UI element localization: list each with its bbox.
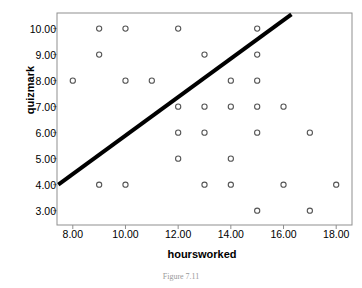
y-tick-label-text: 3.00 (14, 206, 56, 216)
data-point (255, 208, 260, 213)
data-point (202, 52, 207, 57)
y-tick-label-text: 7.00 (14, 102, 56, 112)
scatter-plot-figure: quizmark 3.004.005.006.007.008.009.0010.… (0, 0, 362, 288)
data-point (228, 104, 233, 109)
y-tick-label-text: 9.00 (14, 50, 56, 60)
data-point (255, 104, 260, 109)
data-point (149, 78, 154, 83)
data-point (202, 182, 207, 187)
data-point (176, 130, 181, 135)
data-point (97, 52, 102, 57)
figure-caption: Figure 7.11 (0, 272, 362, 281)
data-point (202, 104, 207, 109)
data-point (255, 52, 260, 57)
x-axis-title: hoursworked (60, 248, 344, 260)
x-tick-label-text: 18.00 (311, 228, 361, 240)
data-point (202, 130, 207, 135)
y-tick-label: 8.00 (6, 76, 56, 86)
data-point (255, 78, 260, 83)
data-point (176, 156, 181, 161)
data-point (70, 78, 75, 83)
y-tick-label-text: 10.00 (14, 24, 56, 34)
y-tick-label: 9.00 (6, 50, 56, 60)
y-tick-label-text: 5.00 (14, 154, 56, 164)
y-tick-label: 10.00 (6, 24, 56, 34)
x-tick-label: 16.00 (259, 228, 309, 240)
y-tick-label: 7.00 (6, 102, 56, 112)
data-point (123, 26, 128, 31)
data-point (228, 156, 233, 161)
data-point (334, 182, 339, 187)
y-tick-label: 4.00 (6, 180, 56, 190)
x-tick-label: 18.00 (311, 228, 361, 240)
x-tick-label-text: 8.00 (48, 228, 98, 240)
x-tick-label-text: 12.00 (153, 228, 203, 240)
data-point (176, 104, 181, 109)
data-point (255, 130, 260, 135)
data-point (307, 130, 312, 135)
y-tick-label: 6.00 (6, 128, 56, 138)
y-tick-label: 5.00 (6, 154, 56, 164)
data-point (123, 78, 128, 83)
y-tick-label-text: 6.00 (14, 128, 56, 138)
x-tick-label-text: 14.00 (206, 228, 256, 240)
plot-frame (57, 13, 352, 225)
regression-line (58, 14, 291, 184)
data-point (307, 208, 312, 213)
x-tick-label: 10.00 (100, 228, 150, 240)
data-point (281, 104, 286, 109)
x-tick-label-text: 16.00 (259, 228, 309, 240)
data-point (228, 182, 233, 187)
x-tick-label: 8.00 (48, 228, 98, 240)
plot-canvas (0, 0, 362, 288)
x-tick-label-text: 10.00 (100, 228, 150, 240)
data-point (97, 182, 102, 187)
data-point (281, 182, 286, 187)
data-point (228, 78, 233, 83)
data-point (97, 26, 102, 31)
x-tick-label: 14.00 (206, 228, 256, 240)
y-tick-label-text: 8.00 (14, 76, 56, 86)
data-point (176, 26, 181, 31)
x-tick-label: 12.00 (153, 228, 203, 240)
data-point (255, 26, 260, 31)
y-tick-label-text: 4.00 (14, 180, 56, 190)
data-point (123, 182, 128, 187)
y-tick-label: 3.00 (6, 206, 56, 216)
